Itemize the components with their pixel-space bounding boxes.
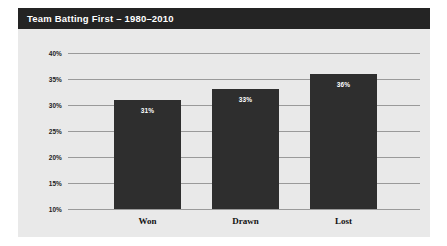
y-axis-tick-label-25: 25%	[18, 128, 62, 135]
x-axis-label-won: Won	[114, 216, 181, 226]
bar-value-lost: 36%	[310, 81, 377, 88]
x-axis-label-lost: Lost	[310, 216, 377, 226]
bar-value-drawn: 33%	[212, 96, 279, 103]
bar-value-won: 31%	[114, 107, 181, 114]
bar-lost[interactable]: 36%	[310, 74, 377, 209]
gridline-40	[68, 53, 420, 54]
y-axis-tick-label-40: 40%	[18, 50, 62, 57]
y-axis-tick-label-30: 30%	[18, 102, 62, 109]
chart-title-bar: Team Batting First – 1980–2010	[18, 8, 430, 29]
y-axis-tick-label-10: 10%	[18, 206, 62, 213]
y-axis-tick-label-20: 20%	[18, 154, 62, 161]
y-axis-tick-label-35: 35%	[18, 76, 62, 83]
chart-card: Team Batting First – 1980–2010 40% 35% 3…	[18, 8, 430, 237]
bar-drawn[interactable]: 33%	[212, 89, 279, 209]
chart-plot-area: 40% 35% 30% 25% 20% 15% 10% 31% 33% 36% …	[18, 29, 430, 237]
page-title: Team Batting First – 1980–2010	[18, 13, 174, 24]
bar-won[interactable]: 31%	[114, 100, 181, 209]
y-axis-tick-label-15: 15%	[18, 180, 62, 187]
gridline-10-baseline	[68, 209, 420, 210]
x-axis-label-drawn: Drawn	[212, 216, 279, 226]
